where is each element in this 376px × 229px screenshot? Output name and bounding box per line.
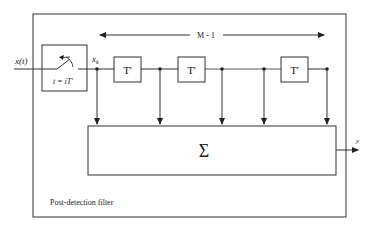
svg-text:T': T'	[290, 64, 299, 76]
switch-icon	[57, 55, 73, 69]
sample-label: xk	[91, 54, 99, 65]
output-label: y	[355, 137, 360, 145]
span-label: M - 1	[197, 31, 215, 40]
delay-block-2: T'	[178, 57, 205, 82]
summer-label: Σ	[199, 141, 209, 161]
sampler-block: t = iT'	[42, 45, 87, 91]
sampler-time-label: t = iT'	[53, 77, 73, 86]
svg-text:T': T'	[187, 64, 196, 76]
span-arrow: M - 1	[100, 31, 324, 40]
filter-title: Post-detection filter	[50, 198, 114, 207]
delay-block-3: T'	[281, 57, 308, 82]
input-label: x(t)	[14, 56, 28, 66]
delay-block-1: T'	[114, 57, 141, 82]
summer-block: Σ	[88, 126, 336, 175]
filter-outer-box	[33, 14, 346, 217]
svg-text:T': T'	[123, 64, 132, 76]
post-detection-filter-diagram: x(t) t = iT' xk M - 1 T' T' T'	[0, 0, 376, 229]
